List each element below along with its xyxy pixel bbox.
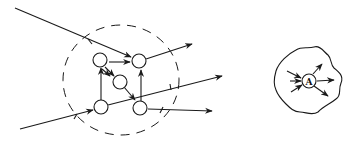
- diagram-canvas: A: [0, 0, 359, 144]
- outgoing-arrow: [314, 86, 328, 96]
- particle-node: [113, 75, 127, 89]
- node-a-label: A: [305, 77, 314, 87]
- right-figure: A: [274, 47, 342, 114]
- incoming-arrow: [287, 71, 301, 78]
- particle-node: [133, 101, 147, 115]
- incoming-arrow: [291, 85, 302, 92]
- particle-node: [94, 100, 108, 114]
- incoming-arrow-bottom: [20, 110, 93, 129]
- outgoing-arrow-top: [146, 44, 192, 59]
- particle-node: [132, 54, 146, 68]
- arrow-c1-c3: [105, 67, 114, 76]
- left-figure: [15, 8, 222, 135]
- outgoing-arrow: [317, 80, 334, 81]
- outgoing-arrow-bottom: [148, 109, 212, 111]
- outgoing-arrow: [313, 64, 322, 74]
- particle-node: [93, 53, 107, 67]
